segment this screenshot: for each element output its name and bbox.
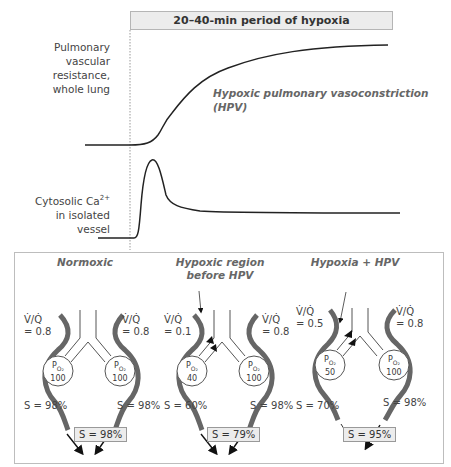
- po2-value: 100: [109, 374, 131, 384]
- vq-ratio-symbol: V̇/Q̇: [396, 306, 423, 318]
- po2-subscript: O₂: [119, 365, 126, 372]
- vq-label-p1-left: V̇/Q̇= 0.8: [24, 314, 51, 338]
- vq-value: = 0.1: [164, 326, 191, 338]
- pvr-label-line: resistance,: [30, 68, 110, 82]
- po2-p2-left: PO₂40: [181, 361, 203, 384]
- po2-subscript: O₂: [253, 365, 260, 372]
- sat-p3-left: S = 70%: [296, 400, 339, 411]
- hpv-annotation-line: (HPV): [213, 100, 428, 114]
- po2-subscript: O₂: [393, 359, 400, 366]
- vq-ratio-symbol: V̇/Q̇: [24, 314, 51, 326]
- pvr-label-line: Pulmonary: [30, 40, 110, 54]
- pvr-label-line: vascular: [30, 54, 110, 68]
- vq-value: = 0.8: [122, 326, 149, 338]
- panel-title-hypoxic-region: Hypoxic region before HPV: [170, 256, 270, 282]
- po2-value: 50: [319, 368, 341, 378]
- vq-value: = 0.5: [296, 318, 323, 330]
- sat-p2-left: S = 60%: [164, 400, 207, 411]
- po2-value: 100: [47, 374, 69, 384]
- po2-value: 100: [383, 368, 405, 378]
- panel-title-line: before HPV: [170, 269, 270, 282]
- calcium-curve: [98, 160, 400, 238]
- airway: [199, 310, 245, 362]
- sat-p3-right: S = 98%: [383, 397, 426, 408]
- panel-title-normoxic: Normoxic: [40, 256, 130, 269]
- vq-label-p2-right: V̇/Q̇= 0.8: [262, 314, 289, 338]
- mixed-sat-p3: S = 95%: [343, 427, 396, 442]
- panel-title-line: Hypoxic region: [170, 256, 270, 269]
- po2-subscript: O₂: [191, 365, 198, 372]
- panel-title-hypoxia-hpv: Hypoxia + HPV: [305, 256, 405, 269]
- vq-value: = 0.8: [396, 318, 423, 330]
- airway: [65, 310, 111, 362]
- po2-p1-left: PO₂100: [47, 361, 69, 384]
- panel-title-line: Hypoxia + HPV: [305, 256, 405, 269]
- airway: [337, 308, 383, 356]
- po2-subscript: O₂: [329, 359, 336, 366]
- vq-label-p3-left: V̇/Q̇= 0.5: [296, 306, 323, 330]
- calcium-label-line: vessel: [20, 222, 110, 236]
- mixed-sat-p2: S = 79%: [207, 427, 260, 442]
- pvr-label-line: whole lung: [30, 82, 110, 96]
- vq-value: = 0.8: [24, 326, 51, 338]
- constriction-icon: [344, 330, 356, 346]
- vq-label-p1-right: V̇/Q̇= 0.8: [122, 314, 149, 338]
- calcium-label-line: Cytosolic Ca2+: [20, 191, 110, 208]
- calcium-label-text: Cytosolic Ca: [35, 195, 100, 207]
- po2-value: 40: [181, 374, 203, 384]
- sat-p2-right: S = 98%: [250, 400, 293, 411]
- calcium-label-line: in isolated: [20, 208, 110, 222]
- po2-p3-left: PO₂50: [319, 355, 341, 378]
- po2-p3-right: PO₂100: [383, 355, 405, 378]
- pvr-axis-label: Pulmonary vascular resistance, whole lun…: [30, 40, 110, 96]
- sat-p1-left: S = 98%: [24, 400, 67, 411]
- po2-p2-right: PO₂100: [243, 361, 265, 384]
- mixed-sat-p1: S = 98%: [74, 427, 127, 442]
- po2-subscript: O₂: [57, 365, 64, 372]
- calcium-axis-label: Cytosolic Ca2+ in isolated vessel: [20, 191, 110, 236]
- vq-ratio-symbol: V̇/Q̇: [262, 314, 289, 326]
- hpv-annotation-line: Hypoxic pulmonary vasoconstriction: [213, 86, 428, 100]
- constriction-icon: [206, 336, 217, 352]
- vq-ratio-symbol: V̇/Q̇: [164, 314, 191, 326]
- vq-label-p3-right: V̇/Q̇= 0.8: [396, 306, 423, 330]
- po2-p1-right: PO₂100: [109, 361, 131, 384]
- panel-title-line: Normoxic: [40, 256, 130, 269]
- vq-label-p2-left: V̇/Q̇= 0.1: [164, 314, 191, 338]
- vq-ratio-symbol: V̇/Q̇: [122, 314, 149, 326]
- sat-p1-right: S = 98%: [117, 400, 160, 411]
- calcium-superscript: 2+: [100, 194, 110, 202]
- hpv-annotation: Hypoxic pulmonary vasoconstriction (HPV): [213, 86, 428, 114]
- vq-value: = 0.8: [262, 326, 289, 338]
- vq-ratio-symbol: V̇/Q̇: [296, 306, 323, 318]
- po2-value: 100: [243, 374, 265, 384]
